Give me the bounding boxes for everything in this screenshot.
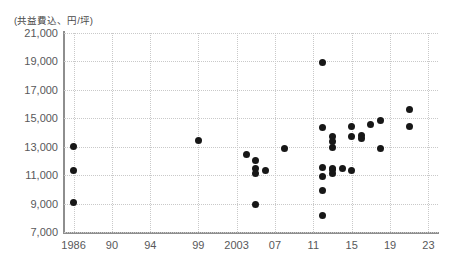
x-axis-tick-label: 1986 [61,239,85,251]
data-point [319,124,326,131]
data-point [319,187,326,194]
y-axis-tick-label: 19,000 [6,55,58,67]
gridline-vertical [313,33,314,232]
data-point [348,133,355,140]
gridline-horizontal [64,33,438,34]
data-point [406,123,413,130]
data-point [348,123,355,130]
data-point [262,167,269,174]
data-point [319,173,326,180]
y-axis-tick-label: 9,000 [6,198,58,210]
x-axis-tick-label: 07 [269,239,281,251]
gridline-horizontal [64,175,438,176]
x-axis-tick-label: 2003 [224,239,248,251]
x-axis-tick-label: 94 [144,239,156,251]
data-point [252,201,259,208]
y-axis-unit-label: (共益費込、円/坪) [14,13,93,27]
gridline-horizontal [64,90,438,91]
y-axis-tick-label: 15,000 [6,112,58,124]
gridline-vertical [237,33,238,232]
data-point [406,106,413,113]
x-axis-tick-label: 90 [106,239,118,251]
data-point [70,143,77,150]
data-point [348,167,355,174]
gridline-horizontal [64,204,438,205]
y-axis-tick-label: 7,000 [6,226,58,238]
data-point [319,164,326,171]
gridline-horizontal [64,232,438,233]
y-axis-tick-label: 21,000 [6,27,58,39]
gridline-vertical [198,33,199,232]
data-point [243,151,250,158]
x-axis-tick-label: 15 [346,239,358,251]
gridline-vertical [150,33,151,232]
y-axis-tick-label: 17,000 [6,84,58,96]
data-point [367,121,374,128]
data-point [319,212,326,219]
data-point [281,145,288,152]
y-axis-tick-label: 13,000 [6,141,58,153]
gridline-vertical [428,33,429,232]
x-axis-tick-label: 11 [308,239,319,251]
data-point [70,199,77,206]
scatter-chart: (共益費込、円/坪) 21,00019,00017,00015,00013,00… [0,0,452,264]
data-point [339,165,346,172]
data-point [377,145,384,152]
data-point [377,117,384,124]
plot-area [64,33,438,232]
data-point [319,59,326,66]
data-point [70,167,77,174]
data-point [329,144,336,151]
gridline-vertical [275,33,276,232]
y-axis-tick-label: 11,000 [6,169,58,181]
x-axis-tick-label: 99 [192,239,204,251]
data-point [252,157,259,164]
data-point [358,135,365,142]
data-point [329,165,336,172]
gridline-vertical [112,33,113,232]
x-axis-tick-label: 23 [422,239,434,251]
data-point [195,137,202,144]
x-axis-tick-label: 19 [384,239,396,251]
gridline-vertical [390,33,391,232]
gridline-horizontal [64,61,438,62]
data-point [252,170,259,177]
